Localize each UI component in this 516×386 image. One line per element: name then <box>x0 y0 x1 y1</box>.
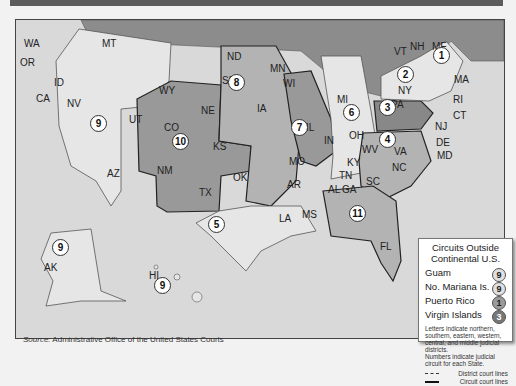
circuit-number-marker: 9 <box>154 277 171 294</box>
state-label: NJ <box>435 122 447 132</box>
circuit-number-marker: 3 <box>379 99 396 116</box>
state-label: MS <box>302 210 317 220</box>
state-label: LA <box>279 214 291 224</box>
state-label: VT <box>394 47 407 57</box>
dashed-line-icon <box>425 373 439 374</box>
state-label: MD <box>437 151 453 161</box>
circuit-number-marker: 10 <box>172 133 189 150</box>
state-label: MI <box>337 95 348 105</box>
solid-line-icon <box>425 381 439 383</box>
circuit-number-marker: 5 <box>208 216 225 233</box>
state-label: VA <box>394 147 407 157</box>
circuit-badge: 9 <box>492 282 506 296</box>
state-label: WA <box>24 39 40 49</box>
state-label: ND <box>227 52 241 62</box>
circuit-badge: 1 <box>492 296 506 310</box>
circuit-number-marker: 8 <box>228 74 245 91</box>
circuit-number-marker: 1 <box>433 47 450 64</box>
legend-row-virgin-islands: Virgin Islands3 <box>425 309 512 323</box>
state-label: KS <box>213 142 226 152</box>
state-label: CA <box>36 94 50 104</box>
circuit-badge: 3 <box>492 310 506 324</box>
legend-row-guam: Guam9 <box>425 267 512 281</box>
state-label: CT <box>453 111 466 121</box>
source-caption: Source: Administrative Office of the Uni… <box>23 335 224 344</box>
state-label: MT <box>102 39 116 49</box>
state-label: WY <box>159 86 175 96</box>
state-label: SC <box>366 177 380 187</box>
legend-row-puerto-rico: Puerto Rico1 <box>425 295 512 309</box>
header-bar <box>10 0 503 6</box>
state-label: KY <box>347 158 360 168</box>
state-label: MO <box>289 157 305 167</box>
state-label: GA <box>342 185 356 195</box>
state-label: OK <box>233 173 247 183</box>
state-label: AR <box>287 180 301 190</box>
legend-title-line2: Continental U.S. <box>419 253 512 264</box>
state-label: TX <box>199 188 212 198</box>
circuit-number-marker: 9 <box>90 115 107 132</box>
legend-row-mariana: No. Mariana Is.9 <box>425 281 512 295</box>
state-label: NE <box>201 106 215 116</box>
legend-line-key: District court lines Circuit court lines <box>425 370 508 386</box>
legend-note-numbers: Numbers indicate judicial circuit for ea… <box>425 353 508 367</box>
state-label: FL <box>380 242 392 252</box>
legend-title-line1: Circuits Outside <box>419 242 512 253</box>
state-label: MA <box>454 75 469 85</box>
state-label: NV <box>67 99 81 109</box>
state-label: IN <box>324 136 334 146</box>
state-label: WI <box>283 79 295 89</box>
circuit-number-marker: 2 <box>397 66 414 83</box>
state-label: MN <box>270 64 286 74</box>
state-label: TN <box>339 171 352 181</box>
state-label: RI <box>453 95 463 105</box>
state-label: DE <box>436 138 450 148</box>
state-label: AK <box>44 263 57 273</box>
circuit-number-marker: 9 <box>52 239 69 256</box>
state-label: NM <box>157 166 173 176</box>
circuit-number-marker: 6 <box>343 104 360 121</box>
state-label: NY <box>398 86 412 96</box>
legend-box: Circuits Outside Continental U.S. Guam9 … <box>418 238 513 342</box>
legend-note-letters: Letters indicate northern, southern, eas… <box>425 325 508 353</box>
state-label: WV <box>362 145 378 155</box>
state-label: NC <box>392 163 406 173</box>
state-label: AL <box>328 185 340 195</box>
state-label: OR <box>20 58 35 68</box>
circuit-number-marker: 4 <box>379 131 396 148</box>
state-label: CO <box>164 123 179 133</box>
circuit-number-marker: 7 <box>291 119 308 136</box>
state-label: NH <box>410 42 424 52</box>
circuit-badge: 9 <box>492 268 506 282</box>
state-label: ID <box>54 78 64 88</box>
state-label: AZ <box>107 169 120 179</box>
state-label: OH <box>349 131 364 141</box>
circuit-number-marker: 11 <box>349 205 366 222</box>
state-label: UT <box>129 115 142 125</box>
state-label: IA <box>257 104 266 114</box>
